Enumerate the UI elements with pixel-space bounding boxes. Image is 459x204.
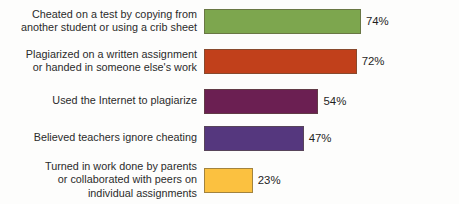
bar-category-label: Plagiarized on a written assignment or h… — [0, 48, 204, 75]
chart-row: Plagiarized on a written assignment or h… — [0, 42, 459, 80]
bar-value-label: 23% — [258, 174, 281, 186]
label-line: individual assignments — [0, 187, 197, 201]
bar-track: 54% — [204, 85, 459, 117]
bar-track: 72% — [204, 42, 459, 80]
label-line: or collaborated with peers on — [0, 173, 197, 187]
bar-value-label: 54% — [323, 95, 346, 107]
bar — [204, 49, 357, 74]
bar — [204, 89, 318, 114]
bar-category-label: Cheated on a test by copying from anothe… — [0, 8, 204, 35]
horizontal-bar-chart: Cheated on a test by copying from anothe… — [0, 0, 459, 204]
bar-value-label: 74% — [366, 15, 389, 27]
bar-track: 74% — [204, 2, 459, 40]
bar-track: 23% — [204, 157, 459, 203]
bar-value-label: 47% — [309, 132, 332, 144]
label-line: or handed in someone else's work — [0, 61, 197, 75]
label-line: Cheated on a test by copying from — [0, 8, 197, 22]
bar-category-label: Used the Internet to plagiarize — [0, 94, 204, 108]
bar-value-label: 72% — [362, 55, 385, 67]
label-line: Used the Internet to plagiarize — [0, 94, 197, 108]
label-line: Plagiarized on a written assignment — [0, 48, 197, 62]
bar — [204, 126, 304, 151]
chart-row: Used the Internet to plagiarize 54% — [0, 85, 459, 117]
chart-row: Turned in work done by parents or collab… — [0, 157, 459, 203]
bar — [204, 168, 253, 193]
chart-row: Believed teachers ignore cheating 47% — [0, 122, 459, 154]
bar-category-label: Believed teachers ignore cheating — [0, 131, 204, 145]
label-line: Believed teachers ignore cheating — [0, 131, 197, 145]
bar-category-label: Turned in work done by parents or collab… — [0, 160, 204, 201]
bar — [204, 9, 361, 34]
chart-row: Cheated on a test by copying from anothe… — [0, 2, 459, 40]
label-line: Turned in work done by parents — [0, 160, 197, 174]
label-line: another student or using a crib sheet — [0, 21, 197, 35]
bar-track: 47% — [204, 122, 459, 154]
